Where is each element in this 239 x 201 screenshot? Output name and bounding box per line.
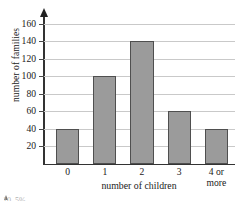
x-tick-label: 2 [140,167,145,178]
bars-group [43,12,235,165]
bar [168,111,191,163]
plot-area: 20406080100120140160 01234 ormore [43,12,235,165]
x-tick-label: 0 [65,167,70,178]
x-tick-label: 3 [177,167,182,178]
y-tick-label: 140 [22,36,36,46]
x-tick-label-line: 3 [177,167,182,178]
x-tick-label: 1 [102,167,107,178]
x-tick-label-line: 0 [65,167,70,178]
y-axis-title: number of families [11,5,21,125]
bar-chart-figure: number of families 20406080100120140160 … [0,0,239,201]
x-axis-title: number of children [43,180,235,191]
x-tick-label-line: 4 or [207,167,227,178]
y-tick-label: 100 [22,71,36,81]
bar [205,129,228,164]
y-tick-label: 80 [26,89,36,99]
x-tick-label-line: 2 [140,167,145,178]
bar [93,76,116,163]
y-tick-label: 160 [22,19,36,29]
y-tick-label: 20 [26,141,36,151]
y-tick-label: 40 [26,124,36,134]
bar [56,129,79,164]
bar [130,41,153,163]
y-tick-label: 120 [22,54,36,64]
x-tick-label-line: 1 [102,167,107,178]
footer-clipped-text: 10. 5% [3,196,26,201]
y-tick-label: 60 [26,106,36,116]
